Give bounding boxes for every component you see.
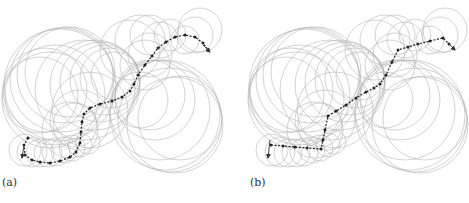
waypoint-marker (385, 74, 388, 77)
waypoint-marker (391, 61, 394, 64)
waypoint-marker (184, 34, 187, 37)
waypoint-marker (355, 97, 358, 100)
end-arrow-icon (449, 44, 455, 50)
waypoint-marker (327, 115, 330, 118)
trajectory-path (24, 35, 208, 163)
coverage-circle (248, 57, 324, 133)
coverage-circle (355, 60, 465, 170)
coverage-circle (423, 8, 467, 52)
waypoint-marker (151, 55, 154, 58)
start-arrow-icon (22, 145, 24, 158)
waypoint-marker (75, 151, 78, 154)
coverage-circle (355, 60, 455, 160)
waypoint-marker (80, 131, 83, 134)
waypoint-marker (397, 49, 400, 52)
waypoint-marker (417, 43, 420, 46)
waypoint-marker (373, 87, 376, 90)
waypoint-marker (49, 162, 52, 165)
waypoint-marker (89, 107, 92, 110)
panel-a-plot (2, 8, 223, 173)
waypoint-marker (442, 37, 445, 40)
waypoint-marker (407, 46, 410, 49)
coverage-circle (248, 52, 344, 148)
coverage-circle (256, 134, 288, 166)
waypoint-marker (306, 147, 309, 150)
waypoint-marker (79, 142, 82, 145)
waypoint-marker (202, 42, 205, 45)
coverage-circle (42, 138, 70, 166)
coverage-circle (127, 77, 223, 173)
panel-a-label: (a) (2, 176, 17, 189)
coverage-circle (178, 8, 222, 52)
waypoint-marker (59, 160, 62, 163)
panel-b-plot (248, 8, 468, 173)
waypoint-marker (27, 137, 30, 140)
waypoint-marker (137, 74, 140, 77)
coverage-circle (290, 138, 318, 166)
coverage-circle (115, 15, 165, 65)
waypoint-marker (111, 100, 114, 103)
waypoint-marker (31, 159, 34, 162)
waypoint-marker (133, 83, 136, 86)
waypoint-marker (129, 90, 132, 93)
waypoint-marker (322, 139, 325, 142)
waypoint-marker (39, 161, 42, 164)
waypoint-marker (83, 113, 86, 116)
waypoint-marker (69, 156, 72, 159)
waypoint-marker (174, 36, 177, 39)
coverage-circle (68, 133, 92, 157)
waypoint-marker (99, 103, 102, 106)
waypoint-marker (144, 64, 147, 67)
coverage-circle (110, 60, 210, 160)
coverage-circle (249, 48, 333, 132)
coverage-circle (263, 27, 359, 123)
waypoint-marker (81, 121, 84, 124)
waypoint-marker (294, 146, 297, 149)
waypoint-marker (194, 36, 197, 39)
waypoint-marker (121, 96, 124, 99)
waypoint-marker (335, 110, 338, 113)
panel-b-label: (b) (250, 176, 266, 189)
waypoint-marker (282, 145, 285, 148)
coverage-circle (282, 139, 310, 167)
coverage-circle (345, 20, 405, 80)
waypoint-marker (345, 104, 348, 107)
coverage-circle (17, 27, 113, 123)
coverage-circle (110, 60, 220, 170)
figure-canvas (0, 0, 469, 203)
waypoint-marker (165, 41, 168, 44)
waypoint-marker (324, 129, 327, 132)
coverage-circle (360, 15, 410, 65)
waypoint-marker (429, 40, 432, 43)
waypoint-marker (24, 154, 27, 157)
waypoint-marker (157, 47, 160, 50)
coverage-circle (372, 77, 468, 173)
waypoint-marker (320, 148, 323, 151)
waypoint-marker (365, 91, 368, 94)
coverage-circle (177, 17, 213, 53)
waypoint-marker (379, 83, 382, 86)
